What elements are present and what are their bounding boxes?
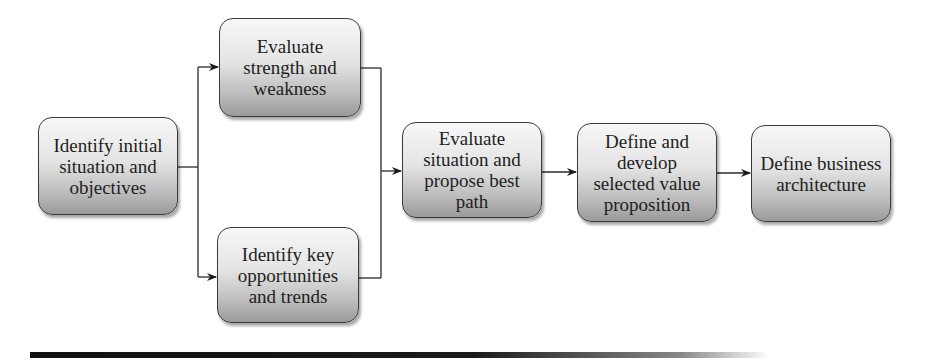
node-define-business-architecture: Define business architecture — [751, 125, 891, 222]
node-line: situation and — [53, 156, 162, 177]
node-line: develop — [593, 152, 700, 173]
node-line: Define business — [761, 153, 882, 174]
node-identify-initial-situation: Identify initial situation and objective… — [38, 117, 178, 215]
node-define-value-proposition: Define and develop selected value propos… — [577, 123, 717, 222]
bottom-divider-rule — [30, 352, 770, 358]
node-line: selected value — [593, 173, 700, 194]
node-line: strength and — [243, 57, 336, 78]
node-line: Define and — [593, 131, 700, 152]
node-line: proposition — [593, 194, 700, 215]
node-line: weakness — [243, 78, 336, 99]
node-line: and trends — [238, 286, 338, 307]
node-line: Evaluate — [423, 128, 521, 149]
node-line: Identify key — [238, 244, 338, 265]
node-evaluate-strength-weakness: Evaluate strength and weakness — [219, 18, 361, 117]
node-line: Identify initial — [53, 135, 162, 156]
flowchart-canvas: Identify initial situation and objective… — [0, 0, 925, 360]
node-line: objectives — [53, 177, 162, 198]
node-line: situation and — [423, 149, 521, 170]
node-line: propose best — [423, 170, 521, 191]
edge-n1-split — [178, 67, 198, 277]
node-line: opportunities — [238, 265, 338, 286]
node-identify-key-opportunities: Identify key opportunities and trends — [217, 227, 359, 323]
node-line: architecture — [761, 174, 882, 195]
edge-merge — [359, 68, 381, 278]
node-evaluate-situation-propose-path: Evaluate situation and propose best path — [402, 122, 542, 218]
node-line: path — [423, 191, 521, 212]
node-line: Evaluate — [243, 36, 336, 57]
